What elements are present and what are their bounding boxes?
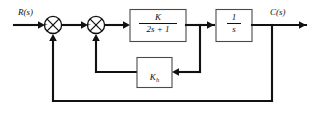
integrator-denominator: s [227, 24, 241, 34]
plant-denominator: 2s + 1 [139, 24, 177, 34]
integrator-label: 1 s [216, 13, 252, 35]
outer-summing-junction-minus-sign: – [51, 29, 55, 36]
rate-feedback-gain-label: Kh [137, 67, 172, 84]
inner-summing-junction-minus-sign: – [94, 29, 98, 36]
wire-sum1-to-sum2 [62, 21, 88, 29]
output-signal-label: C(s) [270, 8, 286, 17]
output-wire [252, 21, 306, 101]
input-signal-label: R(s) [18, 8, 33, 17]
inner-summing-junction-plus-sign: + [87, 22, 91, 29]
wire-sum2-to-plant [105, 21, 130, 29]
plant-transfer-function-label: K 2s + 1 [130, 13, 186, 35]
plant-numerator: K [139, 13, 177, 23]
outer-summing-junction-plus-sign: + [44, 22, 48, 29]
integrator-numerator: 1 [227, 13, 241, 23]
wire-plant-to-integrator [186, 21, 214, 72]
input-wire [14, 21, 45, 29]
rate-feedback-gain-subscript: h [156, 76, 159, 83]
block-diagram: R(s) C(s) + – + – K 2s + 1 1 s Kh [0, 0, 318, 114]
